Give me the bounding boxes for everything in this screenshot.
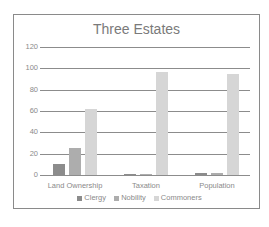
bar-nobility: [211, 173, 223, 175]
y-tick-label: 20: [16, 149, 38, 158]
legend-label-commoners: Commoners: [161, 193, 202, 202]
chart-title: Three Estates: [14, 21, 259, 37]
chart-legend: Clergy Nobility Commoners: [14, 193, 259, 202]
legend-swatch-clergy: [77, 196, 82, 201]
bar-commoners: [227, 74, 239, 175]
bar-commoners: [156, 72, 168, 175]
y-tick-label: 0: [16, 170, 38, 179]
x-category-label: Land Ownership: [40, 181, 110, 190]
gridline: [40, 175, 250, 176]
gridline: [40, 47, 250, 48]
gridline: [40, 90, 250, 91]
legend-swatch-commoners: [154, 196, 159, 201]
chart-frame: Three Estates Clergy Nobility Commoners …: [13, 14, 260, 209]
y-tick-label: 100: [16, 63, 38, 72]
bar-clergy: [124, 174, 136, 175]
x-category-label: Population: [182, 181, 252, 190]
bar-clergy: [195, 173, 207, 175]
bar-clergy: [53, 164, 65, 175]
y-tick-label: 40: [16, 127, 38, 136]
gridline: [40, 111, 250, 112]
x-category-label: Taxation: [111, 181, 181, 190]
legend-label-nobility: Nobility: [121, 193, 146, 202]
legend-label-clergy: Clergy: [84, 193, 106, 202]
bar-nobility: [69, 148, 81, 175]
y-tick-label: 80: [16, 85, 38, 94]
legend-swatch-nobility: [114, 196, 119, 201]
y-tick-label: 120: [16, 42, 38, 51]
gridline: [40, 68, 250, 69]
bar-commoners: [85, 109, 97, 175]
bar-nobility: [140, 174, 152, 175]
y-tick-label: 60: [16, 106, 38, 115]
gridline: [40, 132, 250, 133]
